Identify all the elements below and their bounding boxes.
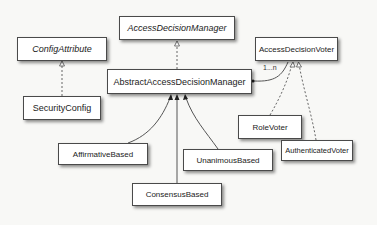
unanimous-based-label: UnanimousBased — [196, 156, 259, 165]
role-voter-box: RoleVoter — [238, 115, 302, 139]
affirmative-based-label: AffirmativeBased — [73, 150, 133, 159]
abstract-access-decision-manager-box: AbstractAccessDecisionManager — [107, 69, 252, 94]
config-attribute-box: ConfigAttribute — [17, 37, 107, 61]
affirmative-based-box: AffirmativeBased — [58, 143, 148, 165]
authenticated-voter-box: AuthenticatedVoter — [281, 140, 353, 161]
abstract-access-decision-manager-label: AbstractAccessDecisionManager — [113, 77, 245, 87]
config-attribute-label: ConfigAttribute — [32, 44, 92, 54]
access-decision-manager-label: AccessDecisionManager — [127, 23, 226, 33]
access-decision-manager-box: AccessDecisionManager — [119, 16, 235, 40]
consensus-based-box: ConsensusBased — [132, 183, 222, 206]
access-decision-voter-label: AccessDecisionVoter — [259, 45, 334, 54]
security-config-box: SecurityConfig — [23, 96, 101, 120]
access-decision-voter-box: AccessDecisionVoter — [255, 37, 338, 61]
role-voter-label: RoleVoter — [252, 123, 287, 132]
consensus-based-label: ConsensusBased — [146, 190, 209, 199]
uml-class-diagram: AccessDecisionManager ConfigAttribute Ab… — [0, 0, 377, 225]
multiplicity-label: 1...n — [263, 64, 277, 71]
security-config-label: SecurityConfig — [33, 103, 92, 113]
authenticated-voter-label: AuthenticatedVoter — [285, 146, 348, 155]
unanimous-based-box: UnanimousBased — [183, 149, 273, 171]
